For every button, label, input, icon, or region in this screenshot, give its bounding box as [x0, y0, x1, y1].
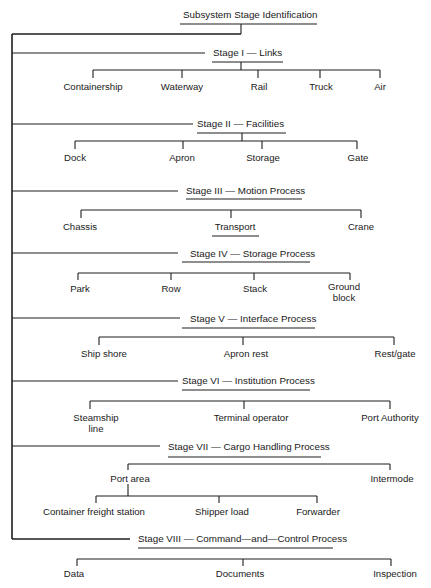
stage-2-item: Apron — [169, 152, 195, 163]
stage-8-item: Documents — [216, 568, 265, 579]
stage-6-item: Port Authority — [361, 412, 419, 423]
stage-1-label: Stage I — Links — [213, 47, 282, 58]
stage-2-item: Gate — [348, 152, 369, 163]
port-area-item: Shipper load — [195, 506, 249, 517]
stage-3-item: Transport — [215, 221, 256, 232]
stage-1-item: Rail — [251, 81, 268, 92]
port-area-item: Container freight station — [43, 506, 145, 517]
stage-8-item: Data — [64, 568, 84, 579]
stage-4-item: Stack — [243, 283, 267, 294]
stage-5-item: Apron rest — [224, 348, 268, 359]
stage-2-item: Storage — [246, 152, 280, 163]
stage-1-item: Waterway — [161, 81, 203, 92]
stage-4-item: Ground — [328, 281, 360, 292]
stage-8-item: Inspection — [373, 568, 417, 579]
stage-7-label: Stage VII — Cargo Handling Process — [168, 441, 330, 452]
stage-1-item: Air — [374, 81, 386, 92]
stage-4-label: Stage IV — Storage Process — [190, 248, 315, 259]
stage-4-item: Row — [161, 283, 180, 294]
port-area-item: Forwarder — [296, 506, 340, 517]
stage-1-item: Containership — [63, 81, 122, 92]
stage-3-item: Crane — [348, 221, 374, 232]
stage-2-label: Stage II — Facilities — [197, 118, 284, 129]
stage-5-item: Ship shore — [81, 348, 127, 359]
stage-1-item: Truck — [309, 81, 333, 92]
stage-7-item: Port area — [110, 473, 149, 484]
stage-6-item: Steamship — [73, 412, 118, 423]
stage-8-label: Stage VIII — Command—and—Control Process — [138, 533, 347, 544]
stage-6-label: Stage VI — Institution Process — [182, 375, 315, 386]
stage-5-label: Stage V — Interface Process — [190, 313, 316, 324]
stage-7-item: Intermode — [370, 473, 413, 484]
diagram-title: Subsystem Stage Identification — [183, 9, 318, 20]
stage-2-item: Dock — [64, 152, 86, 163]
stage-5-item: Rest/gate — [374, 348, 415, 359]
stage-6-item: line — [89, 423, 104, 434]
stage-4-item: block — [333, 292, 355, 303]
stage-6-item: Terminal operator — [214, 412, 289, 423]
stage-3-item: Chassis — [63, 221, 97, 232]
stage-4-item: Park — [70, 283, 90, 294]
stage-3-label: Stage III — Motion Process — [186, 185, 305, 196]
